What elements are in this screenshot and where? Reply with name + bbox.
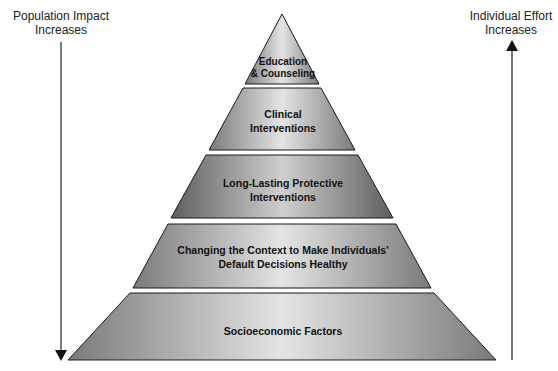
left-axis-label: Population Impact Increases	[0, 9, 122, 37]
arrow-up-icon	[506, 40, 518, 360]
tier-label-socioeconomic: Socioeconomic Factors	[224, 324, 342, 338]
right-axis-label: Individual Effort Increases	[452, 9, 558, 37]
tier-label-clinical: Clinical Interventions	[250, 107, 316, 135]
tier-label-context: Changing the Context to Make Individuals…	[177, 243, 388, 271]
tier-label-education: Education & Counseling	[251, 56, 315, 80]
arrow-down-icon	[55, 42, 67, 361]
tier-label-protective: Long-Lasting Protective Interventions	[223, 176, 343, 204]
